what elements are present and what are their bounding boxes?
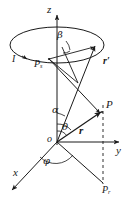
r-prime-mark: ′ [107,55,110,66]
theta-angle-label: θ [62,122,68,132]
y-axis-label: y [116,145,121,156]
current-label: I [12,54,15,64]
source-point-label: Ps [34,59,43,70]
z-axis-label: z [47,4,51,15]
field-point-label: P [106,99,113,110]
projection-line [57,142,103,183]
beta-angle-arm [49,41,94,59]
r-vector-label: r [79,125,83,136]
source-point-subscript: s [40,62,42,69]
alpha-angle-label: α [52,105,59,115]
projection-point-subscript: r [108,188,110,195]
r-prime-label: r′ [103,56,110,66]
phi-angle-label: φ [43,156,50,166]
x-axis [12,142,57,190]
vector-diagram-figure: z y x o I Ps r′ P r Pr β α θ φ [0,0,128,206]
beta-angle-label: β [57,30,63,40]
origin-label: o [47,134,52,144]
x-axis-label: x [13,167,18,178]
field-point-marker [101,111,103,113]
projection-point-label: Pr [102,185,111,196]
